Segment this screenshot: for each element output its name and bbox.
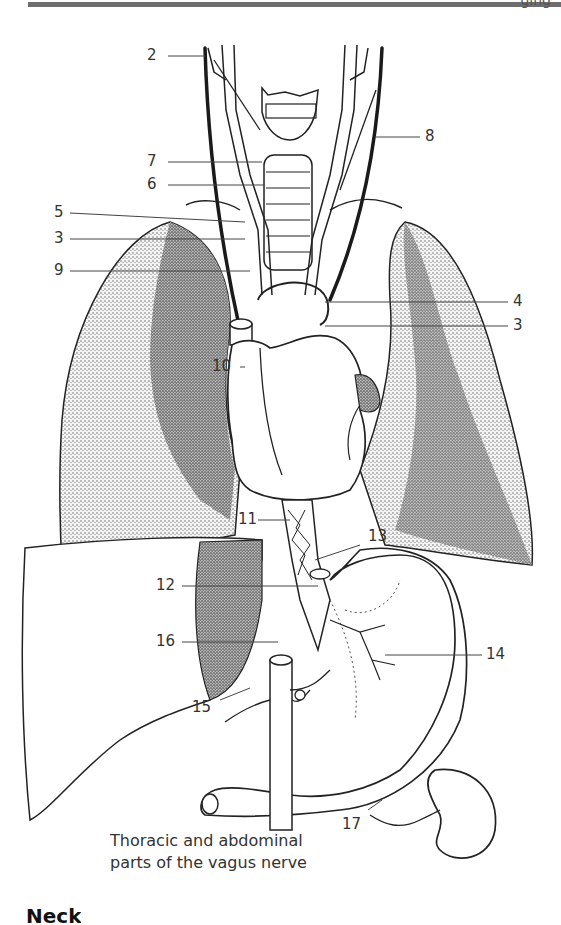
label-3-right: 3 bbox=[513, 318, 523, 333]
label-15: 15 bbox=[192, 700, 211, 715]
label-7: 7 bbox=[147, 154, 157, 169]
label-9: 9 bbox=[54, 263, 64, 278]
larynx bbox=[262, 88, 318, 140]
label-13: 13 bbox=[368, 529, 387, 544]
label-10: 10 bbox=[212, 359, 231, 374]
label-2: 2 bbox=[147, 48, 157, 63]
label-17: 17 bbox=[342, 817, 361, 832]
label-3-left: 3 bbox=[54, 231, 64, 246]
label-5: 5 bbox=[54, 205, 64, 220]
section-heading-partial: Neck bbox=[26, 904, 81, 925]
label-14: 14 bbox=[486, 647, 505, 662]
label-8: 8 bbox=[425, 129, 435, 144]
left-vagus-nerve bbox=[330, 48, 382, 300]
vagus-nerve-diagram bbox=[0, 0, 561, 925]
label-6: 6 bbox=[147, 177, 157, 192]
diaphragm-ring bbox=[310, 569, 330, 579]
heart bbox=[228, 336, 365, 500]
liver-lobe bbox=[196, 540, 262, 700]
label-12: 12 bbox=[156, 578, 175, 593]
caption-line-1: Thoracic and abdominal bbox=[110, 830, 307, 852]
aortic-arch bbox=[258, 283, 328, 325]
label-4: 4 bbox=[513, 294, 523, 309]
label-11: 11 bbox=[238, 512, 257, 527]
figure-caption: Thoracic and abdominal parts of the vagu… bbox=[110, 830, 307, 874]
abdominal-aorta bbox=[270, 660, 292, 830]
spleen bbox=[428, 769, 496, 858]
caption-line-2: parts of the vagus nerve bbox=[110, 852, 307, 874]
label-16: 16 bbox=[156, 634, 175, 649]
